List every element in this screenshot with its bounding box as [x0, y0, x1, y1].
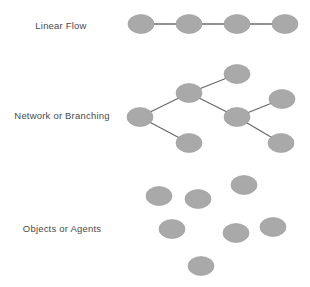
node-circle	[159, 220, 185, 239]
node-circle	[223, 224, 249, 243]
node-circle	[176, 84, 202, 103]
node-circle	[224, 65, 250, 84]
node-circle	[146, 187, 172, 206]
section-objects-agents	[146, 176, 286, 276]
node-circle	[224, 108, 250, 127]
section-linear-flow	[128, 15, 298, 34]
section-network-branching	[127, 65, 295, 153]
node-circle	[268, 134, 294, 153]
node-circle	[185, 190, 211, 209]
node-circle	[188, 257, 214, 276]
node-circle	[260, 218, 286, 237]
node-circle	[269, 90, 295, 109]
node-circle	[127, 108, 153, 127]
node-circle	[224, 15, 250, 34]
node-circle	[176, 134, 202, 153]
node-circle	[272, 15, 298, 34]
diagram-canvas	[0, 0, 310, 287]
node-circle	[231, 176, 257, 195]
node-circle	[128, 15, 154, 34]
node-circle	[176, 15, 202, 34]
